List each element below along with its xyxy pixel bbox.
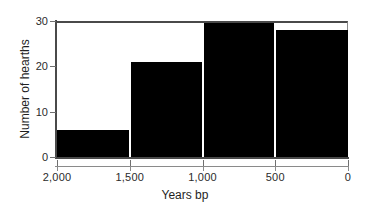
bar-separator xyxy=(129,62,131,157)
y-axis-tick-label: 20 xyxy=(36,60,48,72)
bar xyxy=(275,30,348,157)
y-axis-tick-label: 0 xyxy=(42,151,48,163)
x-axis-tick-label: 1,500 xyxy=(115,171,144,183)
bar xyxy=(57,130,130,157)
bar-separator xyxy=(202,23,204,157)
x-axis-tick-label: 1,000 xyxy=(188,171,217,183)
bar xyxy=(203,23,276,157)
bar-separator xyxy=(274,23,276,157)
histogram-figure: 2,0001,5001,00050000102030 Years bp Numb… xyxy=(0,0,370,212)
x-axis-tick-label: 0 xyxy=(345,171,351,183)
x-axis-tick-label: 2,000 xyxy=(43,171,72,183)
y-axis-title: Number of hearths xyxy=(18,9,32,169)
y-axis-tick xyxy=(50,157,56,158)
x-axis-baseline xyxy=(55,157,349,159)
x-axis-tick-label: 500 xyxy=(266,171,285,183)
y-axis-tick-label: 30 xyxy=(36,15,48,27)
y-axis-tick xyxy=(50,66,56,67)
bar xyxy=(130,62,203,157)
x-axis-title: Years bp xyxy=(0,188,370,202)
y-axis-tick xyxy=(50,21,56,22)
y-axis-tick xyxy=(50,112,56,113)
y-axis-tick-label: 10 xyxy=(36,106,48,118)
